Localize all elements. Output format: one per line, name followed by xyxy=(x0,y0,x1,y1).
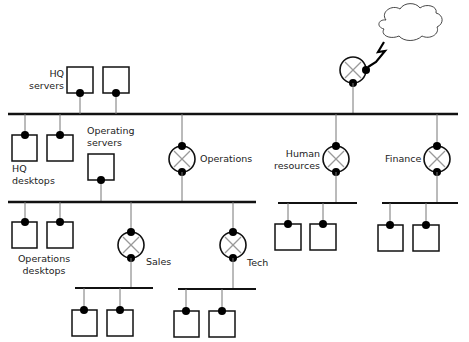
ops-desktop-1-icon xyxy=(12,202,37,248)
human-resources-label: Human resources xyxy=(270,148,320,172)
operating-server-icon xyxy=(88,154,114,202)
network-diagram xyxy=(0,0,469,342)
tech-pc-1-icon xyxy=(174,289,199,337)
finance-pc-1-icon xyxy=(378,203,403,251)
sales-label: Sales xyxy=(146,256,171,268)
internet-cloud-icon xyxy=(379,4,442,41)
tech-label: Tech xyxy=(247,257,268,269)
hq-desktop-1-icon xyxy=(12,114,37,161)
ops-desktop-2-icon xyxy=(47,202,73,248)
operations-desktops-label: Operations desktops xyxy=(14,253,74,277)
finance-pc-2-icon xyxy=(413,203,439,251)
hq-server-1-icon xyxy=(67,67,93,114)
wireless-link-icon xyxy=(368,42,385,67)
hr-pc-1-icon xyxy=(275,203,301,250)
hq-desktop-2-icon xyxy=(47,114,73,161)
operations-label: Operations xyxy=(200,153,252,165)
operating-servers-label: Operating servers xyxy=(87,125,135,149)
hq-server-2-icon xyxy=(103,67,129,114)
hr-pc-2-icon xyxy=(310,203,336,250)
tech-pc-2-icon xyxy=(209,289,235,337)
sales-pc-1-icon xyxy=(72,288,97,336)
hq-servers-label: HQ servers xyxy=(20,68,64,92)
finance-label: Finance xyxy=(385,153,421,165)
hq-desktops-label: HQ desktops xyxy=(12,163,55,187)
sales-pc-2-icon xyxy=(107,288,133,336)
